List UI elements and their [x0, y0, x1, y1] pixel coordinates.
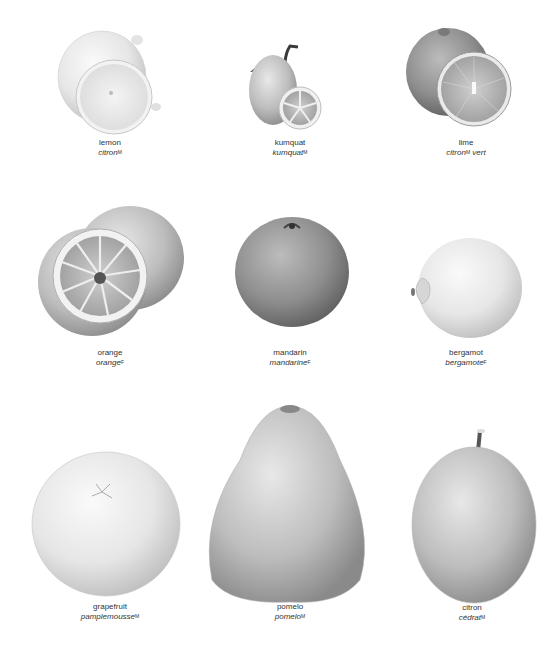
kumquat-illustration — [220, 20, 360, 130]
fruit-grapefruit: grapefruit pamplemousseM — [30, 450, 190, 640]
orange-label: orange orangeF — [40, 348, 180, 368]
orange-illustration — [30, 200, 190, 340]
english-name: mandarin — [220, 348, 360, 358]
grapefruit-label: grapefruit pamplemousseM — [40, 602, 180, 622]
french-name: citronM — [40, 148, 180, 158]
french-name: mandarineF — [220, 358, 360, 368]
kumquat-label: kumquat kumquatM — [220, 138, 360, 158]
fruit-orange: orange orangeF — [40, 200, 180, 375]
french-name: orangeF — [40, 358, 180, 368]
citron-label: citron cédratM — [402, 603, 542, 623]
english-name: citron — [402, 603, 542, 613]
mandarin-illustration — [220, 200, 360, 340]
grapefruit-illustration — [30, 450, 190, 600]
english-name: orange — [40, 348, 180, 358]
french-name: citronM vert — [396, 148, 536, 158]
french-name: cédratM — [402, 613, 542, 623]
fruit-bergamot: bergamot bergamoteF — [396, 200, 536, 375]
english-name: bergamot — [396, 348, 536, 358]
french-name: kumquatM — [220, 148, 360, 158]
fruit-citron: citron cédratM — [402, 425, 542, 640]
french-name: bergamoteF — [396, 358, 536, 368]
citron-illustration — [402, 425, 542, 605]
french-name: pamplemousseM — [40, 612, 180, 622]
fruit-lemon: lemon citronM — [40, 20, 180, 170]
fruit-lime: lime citronM vert — [396, 20, 536, 170]
english-name: kumquat — [220, 138, 360, 148]
bergamot-illustration — [396, 200, 536, 340]
fruit-pomelo: pomelo pomeloM — [200, 400, 380, 640]
pomelo-label: pomelo pomeloM — [220, 602, 360, 622]
pomelo-illustration — [200, 400, 380, 600]
english-name: lime — [396, 138, 536, 148]
english-name: grapefruit — [40, 602, 180, 612]
fruit-kumquat: kumquat kumquatM — [220, 20, 360, 170]
mandarin-label: mandarin mandarineF — [220, 348, 360, 368]
lime-label: lime citronM vert — [396, 138, 536, 158]
fruit-mandarin: mandarin mandarineF — [220, 200, 360, 375]
lemon-label: lemon citronM — [40, 138, 180, 158]
english-name: lemon — [40, 138, 180, 148]
lemon-illustration — [40, 20, 180, 130]
english-name: pomelo — [220, 602, 360, 612]
bergamot-label: bergamot bergamoteF — [396, 348, 536, 368]
french-name: pomeloM — [220, 612, 360, 622]
lime-illustration — [396, 20, 536, 130]
